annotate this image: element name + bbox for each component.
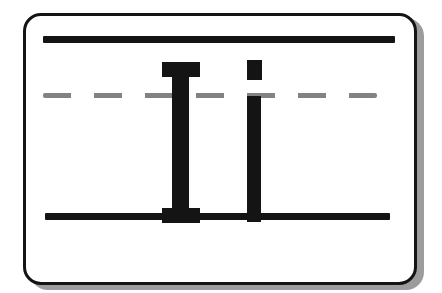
- dashed-midline: [43, 93, 377, 98]
- uppercase-stem: [172, 62, 189, 223]
- bottom-writing-line: [45, 213, 390, 220]
- flashcard-scene: I i: [0, 0, 442, 293]
- uppercase-bottom-serif: [162, 208, 200, 223]
- lowercase-letter-i: i: [247, 60, 262, 224]
- letter-flashcard: I i: [23, 13, 417, 285]
- uppercase-letter-I: I: [162, 62, 200, 223]
- lowercase-stem: [247, 96, 261, 222]
- top-writing-line: [43, 36, 395, 43]
- lowercase-dot: [247, 60, 262, 80]
